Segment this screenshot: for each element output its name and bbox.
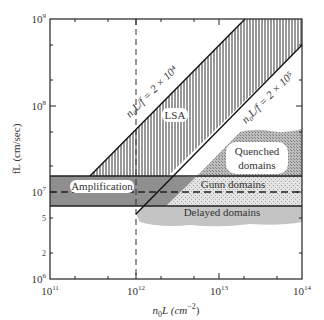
svg-text:1014: 1014	[293, 284, 312, 297]
label-lsa: LSA	[165, 109, 186, 121]
svg-text:108: 108	[32, 99, 47, 112]
label-amplification: Amplification	[71, 180, 133, 192]
svg-text:107: 107	[32, 185, 47, 198]
svg-text:5: 5	[42, 214, 46, 223]
svg-text:2: 2	[42, 249, 46, 258]
y-tick-labels: 109 108 107 106 5 2	[32, 12, 47, 285]
label-quenched-1: Quenched	[235, 145, 280, 157]
label-gunn-domains: Gunn domains	[201, 178, 265, 190]
svg-text:109: 109	[32, 12, 47, 25]
label-delayed-domains: Delayed domains	[184, 206, 261, 218]
svg-text:1013: 1013	[210, 284, 229, 297]
svg-text:1012: 1012	[127, 284, 146, 297]
svg-text:106: 106	[32, 272, 47, 285]
chart: Amplification LSA Quenched domains Gunn …	[0, 0, 324, 320]
y-axis-title: fL (cm/sec)	[10, 123, 23, 174]
svg-text:1011: 1011	[41, 284, 59, 297]
x-axis-title: n0L (cm−2)	[153, 302, 200, 319]
label-quenched-2: domains	[238, 159, 275, 171]
x-tick-labels: 1011 1012 1013 1014	[41, 284, 311, 297]
